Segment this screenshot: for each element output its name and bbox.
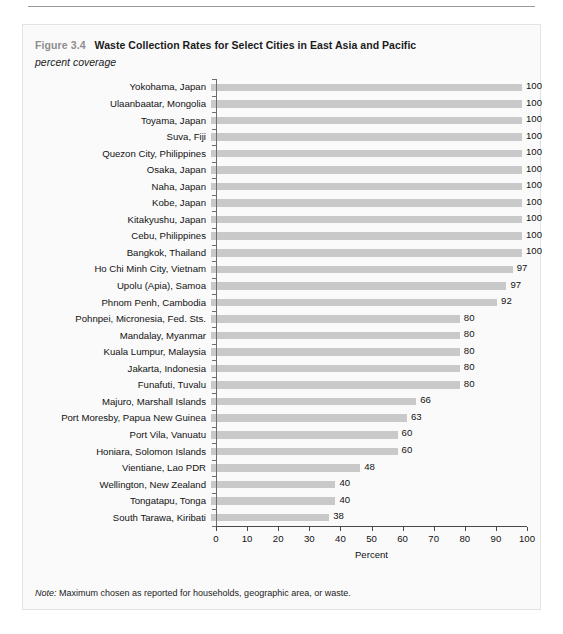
figure-panel: Figure 3.4Waste Collection Rates for Sel…	[22, 24, 541, 610]
bar-row: Honiara, Solomon Islands60	[35, 443, 527, 460]
y-axis-tick	[212, 145, 216, 146]
y-axis-tick	[212, 344, 216, 345]
category-label: South Tarawa, Kiribati	[35, 513, 211, 523]
bar-value-label: 80	[464, 313, 475, 323]
bar-row: Toyama, Japan100	[35, 112, 527, 129]
bar-track: 80	[211, 311, 527, 328]
category-label: Majuro, Marshall Islands	[35, 397, 211, 407]
bar	[211, 481, 335, 489]
bar-value-label: 80	[464, 329, 475, 339]
x-axis-tick	[372, 527, 373, 531]
y-axis-tick	[212, 493, 216, 494]
x-axis-tick-label: 100	[512, 534, 542, 544]
bar-row: Jakarta, Indonesia80	[35, 360, 527, 377]
bar-track: 40	[211, 493, 527, 510]
bar-track: 100	[211, 195, 527, 212]
bar-row: Port Moresby, Papua New Guinea63	[35, 410, 527, 427]
bar	[211, 150, 522, 158]
bar-row: Upolu (Apia), Samoa97	[35, 278, 527, 295]
bar	[211, 299, 497, 307]
bar-track: 100	[211, 79, 527, 96]
bar-row: Kitakyushu, Japan100	[35, 211, 527, 228]
y-axis-tick	[212, 311, 216, 312]
x-axis-tick-label: 90	[481, 534, 511, 544]
bar-row: Kobe, Japan100	[35, 195, 527, 212]
bar-row: Majuro, Marshall Islands66	[35, 393, 527, 410]
bar-row: Funafuti, Tuvalu80	[35, 377, 527, 394]
note-prefix: Note:	[35, 588, 57, 598]
y-axis-tick	[212, 443, 216, 444]
y-axis-tick	[212, 129, 216, 130]
category-label: Toyama, Japan	[35, 116, 211, 126]
bar-row: Cebu, Philippines100	[35, 228, 527, 245]
bar-value-label: 60	[402, 428, 413, 438]
y-axis-tick	[212, 393, 216, 394]
category-label: Cebu, Philippines	[35, 231, 211, 241]
category-label: Phnom Penh, Cambodia	[35, 298, 211, 308]
category-label: Ho Chi Minh City, Vietnam	[35, 264, 211, 274]
bar-value-label: 100	[526, 114, 542, 124]
x-axis-tick-label: 60	[388, 534, 418, 544]
bar-track: 92	[211, 294, 527, 311]
bar-value-label: 100	[526, 164, 542, 174]
x-axis-tick	[309, 527, 310, 531]
category-label: Suva, Fiji	[35, 132, 211, 142]
bar	[211, 133, 522, 141]
bar-track: 100	[211, 112, 527, 129]
x-axis-tick-label: 0	[201, 534, 231, 544]
bar	[211, 514, 329, 522]
bar-row: Kuala Lumpur, Malaysia80	[35, 344, 527, 361]
bar-track: 60	[211, 443, 527, 460]
x-axis-tick-label: 20	[263, 534, 293, 544]
bar-track: 80	[211, 360, 527, 377]
y-axis-tick	[212, 162, 216, 163]
bar	[211, 282, 506, 290]
figure-note: Note: Maximum chosen as reported for hou…	[35, 588, 527, 599]
bar	[211, 315, 460, 323]
category-label: Honiara, Solomon Islands	[35, 447, 211, 457]
bar-value-label: 100	[526, 246, 542, 256]
x-axis-tick-label: 40	[325, 534, 355, 544]
x-axis-title: Percent	[216, 550, 527, 560]
bar-track: 63	[211, 410, 527, 427]
bar-track: 100	[211, 96, 527, 113]
figure-subtitle: percent coverage	[35, 56, 527, 68]
x-axis-tick	[465, 527, 466, 531]
category-label: Mandalay, Myanmar	[35, 331, 211, 341]
figure-number: Figure 3.4	[35, 39, 86, 51]
category-label: Naha, Japan	[35, 182, 211, 192]
category-label: Funafuti, Tuvalu	[35, 380, 211, 390]
bar	[211, 381, 460, 389]
bar-value-label: 92	[501, 296, 512, 306]
y-axis-tick	[212, 79, 216, 80]
x-axis-tick-label: 80	[450, 534, 480, 544]
bar-value-label: 38	[333, 511, 344, 521]
y-axis-tick	[212, 377, 216, 378]
bar-row: Port Vila, Vanuatu60	[35, 426, 527, 443]
bar-row: Ho Chi Minh City, Vietnam97	[35, 261, 527, 278]
bar-row: South Tarawa, Kiribati38	[35, 509, 527, 526]
x-axis-tick-label: 50	[357, 534, 387, 544]
bar	[211, 166, 522, 174]
y-axis-tick	[212, 261, 216, 262]
bar-rows: Yokohama, Japan100Ulaanbaatar, Mongolia1…	[35, 79, 527, 526]
y-axis-tick	[212, 360, 216, 361]
bar-value-label: 80	[464, 362, 475, 372]
category-label: Jakarta, Indonesia	[35, 364, 211, 374]
y-axis-tick	[212, 245, 216, 246]
bar	[211, 414, 407, 422]
category-label: Yokohama, Japan	[35, 82, 211, 92]
bar	[211, 464, 360, 472]
x-axis-tick	[340, 527, 341, 531]
bar-value-label: 100	[526, 81, 542, 91]
bar-row: Osaka, Japan100	[35, 162, 527, 179]
y-axis-tick	[212, 195, 216, 196]
bar-row: Bangkok, Thailand100	[35, 244, 527, 261]
category-label: Kitakyushu, Japan	[35, 215, 211, 225]
bar	[211, 117, 522, 125]
bar-row: Yokohama, Japan100	[35, 79, 527, 96]
bar-row: Vientiane, Lao PDR48	[35, 460, 527, 477]
x-axis-tick-label: 70	[419, 534, 449, 544]
y-axis-tick	[212, 178, 216, 179]
y-axis-tick	[212, 211, 216, 212]
